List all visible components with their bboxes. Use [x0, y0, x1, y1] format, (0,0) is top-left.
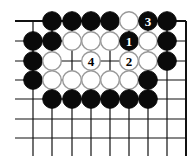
- go-board-diagram: 3142: [0, 0, 195, 164]
- black-stone: [43, 12, 62, 31]
- black-stone: [158, 32, 177, 51]
- white-stone: [43, 71, 62, 90]
- move-number: 2: [126, 54, 133, 69]
- black-stone: [24, 32, 43, 51]
- white-stone: 4: [82, 52, 101, 71]
- white-stone: [82, 71, 101, 90]
- white-stone: [139, 32, 158, 51]
- black-stone: [101, 12, 120, 31]
- black-stone: [158, 12, 177, 31]
- black-stone: [24, 52, 43, 71]
- white-stone: [120, 71, 139, 90]
- black-stone: [139, 90, 158, 109]
- black-stone: 1: [120, 32, 139, 51]
- black-stone: [82, 90, 101, 109]
- move-number: 3: [145, 14, 152, 29]
- move-number: 1: [126, 34, 133, 49]
- black-stone: [120, 90, 139, 109]
- white-stone: [43, 52, 62, 71]
- white-stone: [82, 32, 101, 51]
- black-stone: [82, 12, 101, 31]
- white-stone: [101, 32, 120, 51]
- black-stone: [43, 90, 62, 109]
- white-stone: [63, 71, 82, 90]
- white-stone: [63, 32, 82, 51]
- black-stone: [139, 71, 158, 90]
- move-number: 4: [88, 54, 95, 69]
- black-stone: [24, 71, 43, 90]
- white-stone: [139, 52, 158, 71]
- black-stone: [158, 52, 177, 71]
- white-stone: 2: [120, 52, 139, 71]
- black-stone: [101, 90, 120, 109]
- white-stone: [120, 12, 139, 31]
- white-stone: [101, 71, 120, 90]
- black-stone: [43, 32, 62, 51]
- black-stone: 3: [139, 12, 158, 31]
- black-stone: [63, 12, 82, 31]
- black-stone: [63, 90, 82, 109]
